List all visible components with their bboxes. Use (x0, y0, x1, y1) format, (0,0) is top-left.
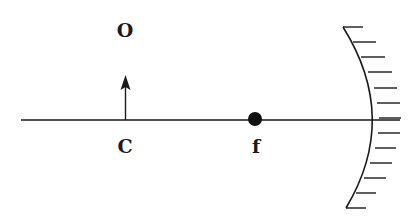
focal-point-label: f (252, 137, 260, 156)
object-label: O (117, 21, 134, 40)
object-arrow (121, 75, 131, 120)
concave-mirror (343, 27, 372, 208)
ray-diagram (0, 0, 419, 223)
center-of-curvature-label: C (117, 137, 132, 156)
focal-point-dot (248, 112, 262, 126)
